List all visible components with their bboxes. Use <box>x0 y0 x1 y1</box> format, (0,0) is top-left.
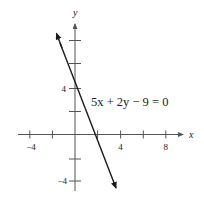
y-axis-label: y <box>72 7 78 18</box>
equation-line <box>60 43 116 188</box>
y-tick-label-neg4: −4 <box>57 176 67 186</box>
x-axis-label: x <box>188 129 194 140</box>
x-tick-label-4: 4 <box>118 142 123 152</box>
equation-line-upper-arrow <box>57 34 63 49</box>
x-tick-label-8: 8 <box>164 142 169 152</box>
y-tick-label-4: 4 <box>62 84 67 94</box>
coordinate-plane: −4 4 8 4 −4 x y 5x + 2y − 9 = 0 <box>0 0 204 204</box>
graph-figure: −4 4 8 4 −4 x y 5x + 2y − 9 = 0 <box>0 0 204 204</box>
x-tick-label-neg4: −4 <box>26 142 36 152</box>
equation-label: 5x + 2y − 9 = 0 <box>91 95 168 109</box>
